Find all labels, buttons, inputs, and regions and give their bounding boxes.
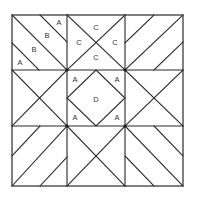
label-tc-bottom: C <box>93 53 99 62</box>
cell-middle-left <box>12 70 67 126</box>
label-tl-a1: A <box>56 18 61 27</box>
label-center-a-tr: A <box>114 75 119 84</box>
cell-top-right <box>125 15 183 70</box>
label-tc-left: C <box>76 38 82 47</box>
cell-bottom-right <box>125 126 183 186</box>
label-tc-right: C <box>112 38 118 47</box>
label-tl-b1: B <box>44 31 49 40</box>
label-tl-a2: A <box>17 58 22 67</box>
label-center-a-br: A <box>114 113 119 122</box>
label-center-a-bl: A <box>72 113 77 122</box>
cell-bottom-left <box>12 126 67 186</box>
quilt-block-diagram: A B B A C C C C A A D A A <box>0 0 197 198</box>
label-center-a-tl: A <box>72 75 77 84</box>
label-center-d: D <box>93 95 99 104</box>
cell-bottom-center <box>67 126 125 186</box>
label-tc-top: C <box>93 23 99 32</box>
label-tl-b2: B <box>31 45 36 54</box>
cell-middle-right <box>125 70 183 126</box>
